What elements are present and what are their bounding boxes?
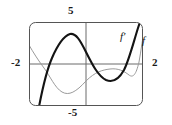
- axis-label-right: 2: [152, 57, 158, 68]
- axis-label-left: -2: [11, 57, 20, 68]
- graph-figure: 5 -5 -2 2 f′ f: [0, 0, 172, 125]
- axis-label-bottom: -5: [68, 107, 77, 118]
- plot-canvas: [0, 0, 172, 125]
- curve-label-f-prime: f′: [120, 31, 125, 42]
- curve-label-f: f: [142, 35, 145, 46]
- axis-label-top: 5: [68, 5, 74, 16]
